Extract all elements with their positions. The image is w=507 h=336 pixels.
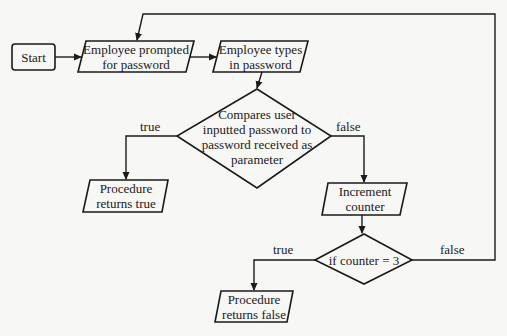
edge-label-compare-false: false	[336, 119, 361, 135]
edge-label-counter-true: true	[273, 242, 293, 258]
increment-node: Increment counter	[324, 183, 406, 215]
types-node: Employee types in password	[214, 41, 307, 72]
returns-false-node: Procedure returns false	[216, 291, 292, 322]
edge-label-compare-true: true	[140, 119, 160, 135]
check-counter-node: if counter = 3	[322, 250, 406, 270]
prompted-node: Employee prompted for password	[80, 41, 192, 72]
edge-label-counter-false: false	[440, 242, 465, 258]
start-node: Start	[12, 44, 55, 70]
flowchart-canvas: Start Employee prompted for password Emp…	[0, 0, 507, 336]
edge-types-to-compare	[257, 72, 262, 88]
compare-node: Compares user inputted password to passw…	[187, 106, 327, 168]
edge-compare-false	[331, 136, 364, 182]
edge-compare-true	[126, 136, 177, 179]
edge-counter-true	[254, 260, 315, 290]
returns-true-node: Procedure returns true	[85, 180, 167, 212]
